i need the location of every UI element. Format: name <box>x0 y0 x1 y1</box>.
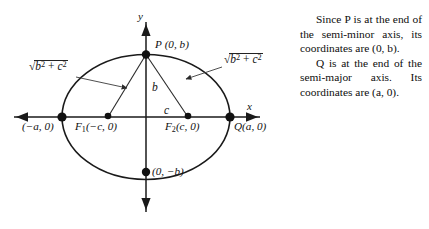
radical-right-c-exp: 2 <box>258 53 262 62</box>
label-right-vertex-coords: (a, 0) <box>242 120 266 132</box>
radical-body-left: b2 + c2 <box>34 60 67 73</box>
leader-arrow-left <box>76 77 127 88</box>
label-focus-right: F2(c, 0) <box>165 121 199 134</box>
paragraph-p-coordinates: Since P is at the end of the semi-minor … <box>300 12 422 56</box>
point-top-vertex <box>142 50 150 58</box>
label-semi-minor-b: b <box>152 82 158 94</box>
label-right-vertex: Q(a, 0) <box>234 121 266 132</box>
x-axis-label: x <box>247 101 252 112</box>
label-top-vertex-coords: (0, b) <box>165 38 189 50</box>
radical-right-b-exp: 2 <box>236 53 240 62</box>
label-focal-radius-left: √b2 + c2 <box>29 60 68 73</box>
point-bottom-vertex <box>142 168 150 176</box>
leader-arrow-right <box>186 67 222 79</box>
label-focus-right-point: F <box>165 120 172 132</box>
label-left-vertex: (−a, 0) <box>22 121 54 132</box>
point-focus-right <box>185 113 192 120</box>
label-top-vertex: P (0, b) <box>155 39 189 50</box>
radical-left-c-exp: 2 <box>63 60 67 69</box>
label-bottom-vertex: (0, −b) <box>152 166 184 177</box>
label-top-vertex-point: P <box>155 38 162 50</box>
label-center-to-focus-c: c <box>164 105 169 117</box>
point-focus-left <box>105 113 112 120</box>
paragraph-q-coordinates: Q is at the end of the semi-major axis. … <box>300 56 422 100</box>
y-axis-label: y <box>138 11 143 22</box>
label-focus-left-coords: (−c, 0) <box>86 120 117 132</box>
radical-body-right: b2 + c2 <box>229 53 262 66</box>
label-focus-left-point: F <box>75 120 82 132</box>
label-focus-left: F1(−c, 0) <box>75 121 117 134</box>
point-left-vertex <box>57 112 66 121</box>
explanatory-text: Since P is at the end of the semi-minor … <box>300 12 422 100</box>
radical-left-b-exp: 2 <box>41 60 45 69</box>
label-focus-right-coords: (c, 0) <box>176 120 200 132</box>
focal-radii <box>108 55 188 118</box>
ellipse-figure: y x P (0, b) (0, −b) (−a, 0) Q(a, 0) F1(… <box>0 0 280 229</box>
radical-left-plus: + <box>48 60 55 72</box>
label-right-vertex-point: Q <box>234 120 242 132</box>
ellipse-diagram-svg <box>0 0 280 229</box>
radical-right-plus: + <box>243 53 250 65</box>
label-focal-radius-right: √b2 + c2 <box>224 53 263 66</box>
